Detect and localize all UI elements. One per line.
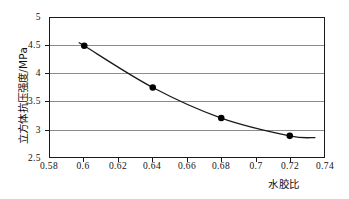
chart-figure: 立方体抗压强度/MPa 水胶比 5 4.5 4 3.5 3 2.5 0.58 0… [0,0,349,199]
data-point [286,133,293,140]
x-tick-label: 0.68 [212,161,230,171]
y-tick-label: 3.5 [28,96,41,106]
x-tick-label: 0.7 [249,161,262,171]
x-tick-label: 0.74 [316,161,334,171]
series-markers [81,43,293,140]
x-tick-label: 0.64 [143,161,161,171]
x-tick-label: 0.58 [40,161,58,171]
y-tick-label: 3 [36,125,41,135]
y-tick-label: 4.5 [28,40,41,50]
data-series-layer [50,18,324,157]
data-point [81,43,88,50]
x-axis-title: 水胶比 [268,176,300,191]
data-point [218,115,225,122]
plot-area [49,17,325,158]
series-line [79,43,315,138]
x-tick-label: 0.66 [178,161,196,171]
y-tick-label: 5 [36,12,41,22]
x-tick-label: 0.62 [109,161,127,171]
x-tick-label: 0.6 [76,161,89,171]
data-point [149,84,156,91]
y-tick-label: 4 [36,68,41,78]
x-tick-label: 0.72 [281,161,299,171]
